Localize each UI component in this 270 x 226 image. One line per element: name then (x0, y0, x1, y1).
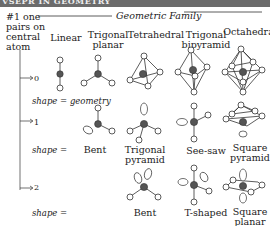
octahedral-molecule (222, 46, 265, 95)
bent-molecule-2lp (127, 168, 161, 200)
t-shaped-molecule (178, 165, 212, 205)
trigonal-planar-molecule (81, 55, 115, 86)
trigonal-bipyramid-molecule (175, 47, 210, 95)
row-bracket-arrows (20, 50, 33, 190)
square-pyramid-molecule (223, 102, 265, 137)
tetrahedral-molecule (127, 53, 163, 89)
bent-molecule-1lp (82, 105, 115, 136)
linear-molecule (57, 57, 63, 91)
square-planar-molecule (223, 169, 265, 203)
trigonal-pyramid-molecule (127, 103, 161, 143)
molecule-diagrams: .b { stroke:#333; stroke-width:0.8; fill… (0, 0, 270, 226)
see-saw-molecule (177, 103, 212, 142)
